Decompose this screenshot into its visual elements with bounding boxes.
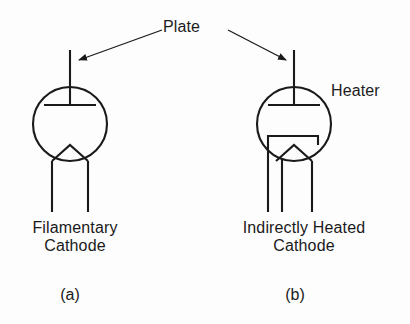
pointer-leader-left	[79, 30, 162, 60]
vacuum-tube-symbols-figure: Plate Heater Filamentary Cathode Indirec…	[0, 0, 410, 324]
caption-indirect-cathode: Indirectly Heated Cathode	[198, 219, 410, 255]
sublabel-b: (b)	[245, 286, 345, 304]
caption-filamentary-line1: Filamentary	[32, 219, 117, 236]
heater-label: Heater	[331, 82, 380, 101]
plate-label: Plate	[163, 18, 200, 37]
sublabel-a: (a)	[20, 286, 120, 304]
caption-filamentary-cathode: Filamentary Cathode	[0, 219, 150, 255]
tube-symbol-indirect	[257, 50, 331, 212]
caption-filamentary-line2: Cathode	[0, 237, 150, 255]
plate-arrow-left	[79, 30, 162, 60]
tube-symbol-filamentary	[33, 50, 107, 212]
plate-arrow-right	[228, 30, 286, 60]
cathode-sleeve-right	[268, 136, 318, 145]
caption-indirect-line2: Cathode	[198, 237, 410, 255]
diagram-canvas	[0, 0, 410, 324]
pointer-leader-right	[228, 30, 286, 60]
caption-indirect-line1: Indirectly Heated	[243, 219, 366, 236]
